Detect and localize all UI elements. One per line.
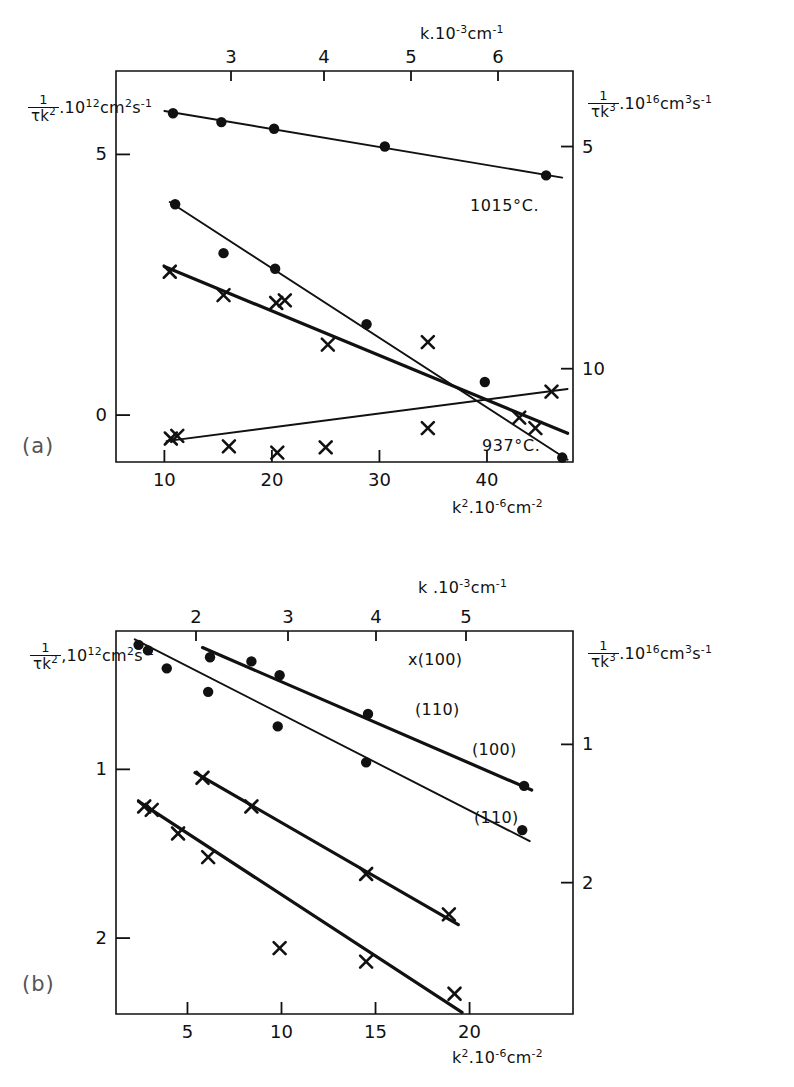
- data-point-cross: [223, 440, 235, 452]
- panel-b-right-fraction: 1 τk3: [588, 639, 619, 671]
- panel-b-label: (b): [22, 972, 55, 996]
- data-point-filled-circle: [170, 199, 180, 209]
- data-point-cross: [422, 336, 434, 348]
- tick-label-left: 1: [96, 758, 107, 779]
- series-label-dot-100: (100): [472, 740, 517, 759]
- tick-label-bottom: 5: [182, 1021, 193, 1042]
- panel-b-left-axis-title: 1 τk2 ,1012cm2s-1: [30, 640, 154, 672]
- data-point-cross: [322, 339, 334, 351]
- tick-label-bottom: 40: [476, 469, 499, 490]
- tick-label-right: 5: [582, 136, 593, 157]
- data-point-cross: [274, 942, 286, 954]
- data-point-filled-circle: [203, 687, 213, 697]
- tick-label-top: 4: [370, 606, 381, 627]
- tick-label-top: 2: [190, 606, 201, 627]
- panel-a-left-fraction: 1 τk2: [28, 93, 59, 125]
- data-point-filled-circle: [162, 663, 172, 673]
- data-point-filled-circle: [480, 377, 490, 387]
- data-point-filled-circle: [380, 141, 390, 151]
- data-point-filled-circle: [205, 652, 215, 662]
- series-label-x-100: x(100): [408, 650, 462, 669]
- data-point-filled-circle: [557, 452, 567, 462]
- panel-b-bottom-axis-title: k2.10-6cm-2: [452, 1048, 543, 1067]
- data-point-cross: [202, 851, 214, 863]
- data-point-filled-circle: [517, 825, 527, 835]
- tick-label-bottom: 20: [260, 469, 283, 490]
- fit-line: [135, 639, 530, 841]
- panel-a-left-axis-title: 1 τk2 .1012cm2s-1: [28, 92, 152, 124]
- data-point-filled-circle: [363, 709, 373, 719]
- data-point-filled-circle: [270, 264, 280, 274]
- tick-label-right: 10: [582, 358, 605, 379]
- temp-label-937: 937°C.: [482, 436, 540, 455]
- data-point-cross: [360, 956, 372, 968]
- data-point-filled-circle: [216, 117, 226, 127]
- panel-b-right-axis-title: 1 τk3 .1016cm3s-1: [588, 638, 712, 670]
- data-point-filled-circle: [361, 757, 371, 767]
- tick-label-bottom: 10: [270, 1021, 293, 1042]
- panel-b-top-axis-title: k .10-3cm-1: [418, 578, 507, 597]
- data-point-cross: [422, 422, 434, 434]
- temp-label-1015: 1015°C.: [470, 196, 539, 215]
- data-point-cross: [172, 827, 184, 839]
- fit-line: [164, 267, 567, 434]
- series-label-x-110: (110): [415, 700, 460, 719]
- data-point-filled-circle: [168, 108, 178, 118]
- panel-a-canvas: 34561020304005510: [0, 0, 794, 500]
- panel-b-left-fraction: 1 τk2: [30, 641, 61, 673]
- data-point-filled-circle: [218, 248, 228, 258]
- fit-line: [167, 389, 568, 441]
- tick-label-left: 5: [96, 143, 107, 164]
- panel-a-right-axis-title: 1 τk3 .1016cm3s-1: [588, 88, 712, 120]
- panel-a-right-fraction: 1 τk3: [588, 89, 619, 121]
- panel-a-label: (a): [22, 434, 54, 458]
- tick-label-left: 2: [96, 927, 107, 948]
- data-point-filled-circle: [541, 170, 551, 180]
- tick-label-bottom: 10: [153, 469, 176, 490]
- tick-label-bottom: 30: [368, 469, 391, 490]
- data-point-filled-circle: [246, 656, 256, 666]
- data-point-filled-circle: [273, 721, 283, 731]
- tick-label-bottom: 15: [364, 1021, 387, 1042]
- fit-line: [170, 202, 568, 460]
- tick-label-right: 2: [582, 872, 593, 893]
- fit-line: [195, 773, 458, 925]
- tick-label-top: 3: [225, 46, 236, 67]
- tick-label-top: 5: [460, 606, 471, 627]
- series-label-dot-110: (110): [474, 808, 519, 827]
- tick-label-top: 6: [492, 46, 503, 67]
- tick-label-left: 0: [96, 404, 107, 425]
- data-point-filled-circle: [519, 781, 529, 791]
- data-point-cross: [320, 441, 332, 453]
- tick-label-top: 3: [282, 606, 293, 627]
- data-point-cross: [529, 422, 541, 434]
- tick-label-right: 1: [582, 733, 593, 754]
- data-point-cross: [449, 988, 461, 1000]
- tick-label-bottom: 20: [458, 1021, 481, 1042]
- data-point-filled-circle: [269, 124, 279, 134]
- panel-a-bottom-axis-title: k2.10-6cm-2: [452, 498, 543, 517]
- data-point-filled-circle: [274, 670, 284, 680]
- panel-a-top-axis-title: k.10-3cm-1: [420, 24, 504, 43]
- data-point-filled-circle: [361, 319, 371, 329]
- tick-label-top: 4: [318, 46, 329, 67]
- tick-label-top: 5: [405, 46, 416, 67]
- figure-root: 34561020304005510 k.10-3cm-1 1 τk2 .1012…: [0, 0, 794, 1087]
- data-point-cross: [271, 447, 283, 459]
